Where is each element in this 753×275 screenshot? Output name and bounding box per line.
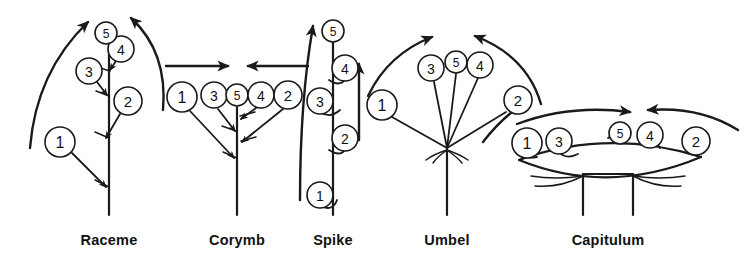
- capitulum-bract-3: [633, 176, 685, 178]
- raceme-marker-3: 3: [76, 58, 102, 84]
- umbel-marker-2: 2: [504, 86, 532, 114]
- marker-number: 1: [316, 188, 324, 204]
- marker-number: 5: [330, 25, 337, 39]
- marker-number: 3: [555, 134, 563, 150]
- marker-number: 3: [427, 61, 435, 77]
- marker-number: 2: [514, 92, 522, 109]
- umbel-ray-3: [434, 82, 447, 148]
- marker-number: 5: [234, 89, 241, 103]
- inflorescence-raceme: [30, 18, 164, 215]
- umbel-involucre-bract-4: [447, 150, 462, 163]
- label-raceme: Raceme: [81, 232, 138, 248]
- spike-marker-1: 1: [307, 182, 333, 208]
- capitulum-marker-5: 5: [609, 122, 631, 144]
- spike-sequence-arrow-left: [300, 26, 313, 200]
- umbel-ray-1: [392, 117, 447, 148]
- marker-number: 5: [453, 56, 460, 70]
- marker-number: 1: [378, 97, 387, 114]
- marker-number: 2: [124, 93, 132, 110]
- corymb-marker-5: 5: [226, 84, 248, 106]
- umbel-marker-4: 4: [467, 52, 493, 78]
- label-umbel: Umbel: [424, 232, 469, 248]
- capitulum-marker-2: 2: [682, 127, 710, 155]
- corymb-pointer-4: [241, 108, 256, 119]
- marker-number: 1: [523, 135, 532, 152]
- marker-number: 4: [257, 88, 265, 104]
- label-capitulum: Capitulum: [572, 232, 645, 248]
- capitulum-marker-3: 3: [546, 128, 572, 154]
- raceme-pointer-1: [72, 153, 106, 187]
- marker-number: 4: [341, 61, 349, 77]
- corymb-pointer-1: [190, 111, 234, 158]
- marker-number: 4: [117, 42, 125, 58]
- marker-number: 3: [316, 94, 324, 110]
- marker-number: 2: [341, 131, 349, 147]
- umbel-marker-5: 5: [445, 51, 467, 73]
- raceme-pointer-4: [110, 61, 116, 70]
- spike-marker-4: 4: [332, 55, 358, 81]
- marker-number: 1: [178, 89, 187, 106]
- inflorescence-capitulum: [483, 106, 738, 215]
- label-spike: Spike: [313, 232, 353, 248]
- marker-number: 2: [284, 87, 292, 104]
- spike-marker-2: 2: [332, 125, 358, 151]
- marker-number: 3: [85, 64, 93, 80]
- corymb-marker-3: 3: [201, 82, 227, 108]
- capitulum-bract-1: [531, 176, 583, 178]
- capitulum-marker-1: 1: [512, 128, 542, 158]
- label-corymb: Corymb: [209, 232, 265, 248]
- marker-number: 5: [617, 127, 624, 141]
- capitulum-sequence-arrow-left: [517, 110, 630, 124]
- flower-order-markers: 1234513542123451354213542: [45, 20, 710, 208]
- capitulum-marker-4: 4: [637, 122, 663, 148]
- spike-marker-3: 3: [307, 88, 333, 114]
- corymb-marker-1: 1: [167, 82, 197, 112]
- marker-number: 4: [646, 128, 654, 144]
- umbel-marker-1: 1: [367, 90, 397, 120]
- marker-number: 4: [476, 58, 484, 74]
- spike-marker-5: 5: [322, 20, 344, 42]
- raceme-marker-2: 2: [114, 87, 142, 115]
- raceme-marker-5: 5: [95, 22, 117, 44]
- inflorescence-diagram: 1234513542123451354213542 RacemeCorymbSp…: [0, 0, 753, 275]
- marker-number: 2: [692, 133, 700, 150]
- corymb-marker-4: 4: [248, 82, 274, 108]
- marker-number: 3: [210, 88, 218, 104]
- marker-number: 1: [56, 134, 65, 151]
- marker-number: 5: [103, 27, 110, 41]
- umbel-marker-3: 3: [418, 55, 444, 81]
- corymb-marker-2: 2: [274, 81, 302, 109]
- raceme-marker-1: 1: [45, 127, 75, 157]
